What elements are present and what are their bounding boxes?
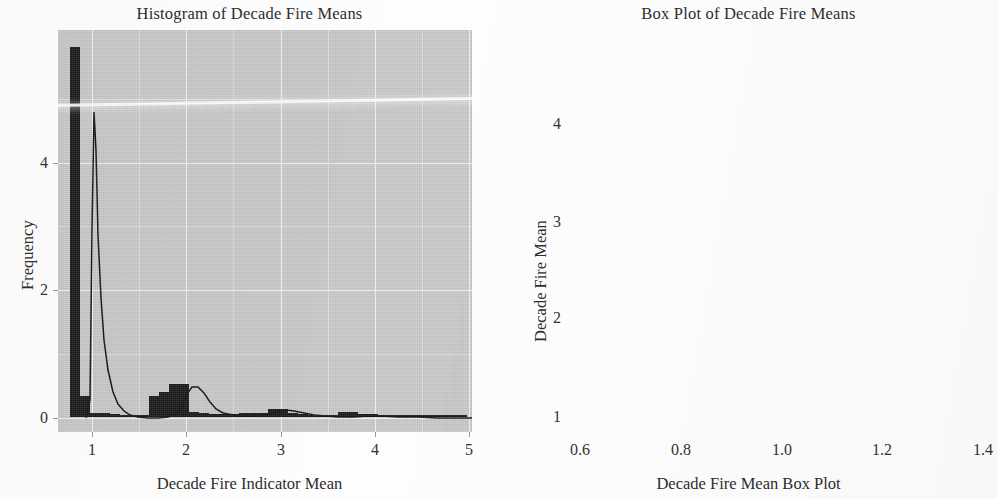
xtick-label-5: 5 (465, 441, 473, 459)
histogram-title: Histogram of Decade Fire Means (0, 4, 499, 24)
histogram-plot-area (58, 30, 472, 432)
xtick-label-4: 4 (371, 441, 379, 459)
histogram-xlabel: Decade Fire Indicator Mean (0, 474, 499, 494)
ytick-mark-4 (53, 163, 58, 164)
xtick-mark-2 (186, 432, 187, 437)
histogram-ylabel: Frequency (18, 220, 38, 290)
boxplot-xlabel: Decade Fire Mean Box Plot (499, 474, 998, 494)
xtick-label-0-8: 0.8 (671, 441, 691, 459)
ytick-label-0: 0 (26, 409, 48, 427)
xtick-label-1-4: 1.4 (973, 441, 993, 459)
histogram-panel: Histogram of Decade Fire Means (0, 0, 499, 499)
boxplot-title: Box Plot of Decade Fire Means (499, 4, 998, 24)
ytick-mark-2 (53, 290, 58, 291)
xtick-label-1-2: 1.2 (872, 441, 892, 459)
kde-curve (58, 30, 472, 432)
ytick-label-4: 4 (26, 154, 48, 172)
xtick-label-3: 3 (277, 441, 285, 459)
xtick-label-1-0: 1.0 (772, 441, 792, 459)
figure-canvas: Histogram of Decade Fire Means (0, 0, 998, 499)
ytick-label-4: 4 (539, 115, 561, 133)
xtick-mark-5 (469, 432, 470, 437)
boxplot-panel: Box Plot of Decade Fire Means (499, 0, 998, 499)
boxplot-ylabel: Decade Fire Mean (531, 220, 551, 342)
xtick-mark-4 (375, 432, 376, 437)
xtick-mark-1 (92, 432, 93, 437)
xtick-label-0-6: 0.6 (570, 441, 590, 459)
xtick-mark-3 (281, 432, 282, 437)
xtick-label-1: 1 (88, 441, 96, 459)
ytick-label-1: 1 (539, 408, 561, 426)
xtick-label-2: 2 (182, 441, 190, 459)
ytick-mark-0 (53, 418, 58, 419)
